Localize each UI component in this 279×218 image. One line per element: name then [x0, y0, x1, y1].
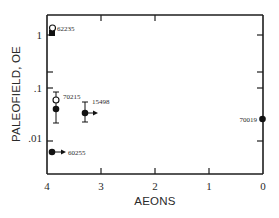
- x-tick-label: 1: [206, 180, 212, 192]
- open-circle-marker: [53, 97, 59, 103]
- x-tick-label: 0: [260, 180, 266, 192]
- y-tick-label: .01: [28, 132, 42, 144]
- y-tick-labels: 1 .1 .01: [28, 29, 42, 144]
- y-tick-label: 1: [37, 29, 43, 41]
- x-tick-label: 2: [152, 180, 158, 192]
- paleofield-chart: 4 3 2 1 0 1 .1 .01 AEONS PALEOFIELD, OE …: [0, 0, 279, 218]
- x-ticks: [101, 15, 209, 174]
- sample-label: 15498: [92, 98, 110, 106]
- filled-circle-marker: [259, 116, 266, 123]
- data-point-15498: 15498: [82, 98, 110, 122]
- sample-label: 60255: [68, 149, 86, 157]
- y-axis-title: PALEOFIELD, OE: [10, 46, 22, 142]
- sample-label: 70019: [240, 116, 258, 124]
- data-point-60255: 60255: [49, 149, 86, 157]
- sample-label: 62235: [57, 25, 75, 33]
- y-ticks: [47, 35, 263, 141]
- open-circle-marker: [50, 25, 56, 31]
- filled-circle-marker: [49, 149, 56, 156]
- data-point-62235: 62235: [49, 25, 75, 37]
- data-point-70215: 70215: [53, 92, 81, 123]
- x-tick-label: 4: [44, 180, 50, 192]
- sample-label: 70215: [63, 93, 81, 101]
- filled-circle-marker: [53, 106, 60, 113]
- y-tick-label: .1: [34, 82, 42, 94]
- x-tick-label: 3: [98, 180, 104, 192]
- x-axis-title: AEONS: [134, 195, 175, 207]
- data-point-70019: 70019: [240, 116, 266, 124]
- filled-circle-marker: [82, 110, 89, 117]
- x-tick-labels: 4 3 2 1 0: [44, 180, 266, 192]
